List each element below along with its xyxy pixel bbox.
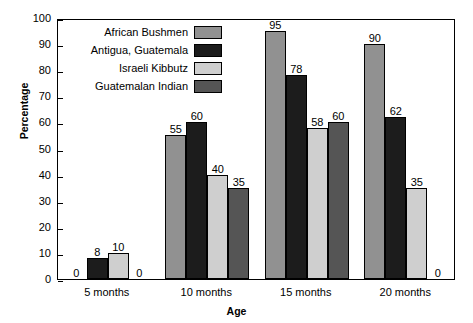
x-tick-label: 20 months [355,287,455,298]
x-tick-label: 10 months [156,287,256,298]
y-tick-label: 50 [23,144,51,155]
bar [228,188,249,279]
y-tick-label: 30 [23,196,51,207]
y-tick-label: 70 [23,91,51,102]
bar-value-label: 0 [420,268,455,279]
y-tick-label: 20 [23,222,51,233]
bar [385,117,406,279]
y-tick-mark [58,124,63,125]
y-tick-label: 10 [23,248,51,259]
bar [87,258,108,279]
legend-item-label: Antigua, Guatemala [91,45,194,56]
y-tick-mark [58,20,63,21]
y-tick-mark [58,203,63,204]
legend-item: African Bushmen [72,24,222,41]
y-tick-mark [58,151,63,152]
y-tick-label: 100 [23,13,51,24]
bar-value-label: 60 [321,111,356,122]
bar [307,128,328,279]
legend-item: Antigua, Guatemala [72,42,222,59]
y-tick-mark [58,229,63,230]
bar-value-label: 95 [258,20,293,31]
bar-chart: Percentage 0102030405060708090100 081005… [0,0,473,323]
y-tick-label: 0 [23,274,51,285]
bar-value-label: 90 [357,33,392,44]
legend-item-label: African Bushmen [104,27,194,38]
y-tick-mark [58,98,63,99]
legend: African BushmenAntigua, GuatemalaIsraeli… [72,24,222,96]
bar-value-label: 62 [378,106,413,117]
legend-item: Guatemalan Indian [72,78,222,95]
bar-value-label: 40 [200,164,235,175]
bar-value-label: 0 [122,268,157,279]
y-tick-label: 80 [23,65,51,76]
x-tick-label: 15 months [256,287,356,298]
bar [406,188,427,279]
x-tick-label: 5 months [57,287,157,298]
bar-value-label: 35 [221,177,256,188]
legend-item-label: Israeli Kibbutz [119,63,194,74]
bar-value-label: 78 [279,64,314,75]
y-tick-label: 90 [23,39,51,50]
y-tick-mark [58,46,63,47]
legend-color-swatch [194,26,222,39]
legend-item: Israeli Kibbutz [72,60,222,77]
bar [364,44,385,279]
legend-color-swatch [194,44,222,57]
y-tick-mark [58,177,63,178]
bar [207,175,228,279]
y-tick-mark [58,281,63,282]
bar [328,122,349,279]
y-tick-label: 60 [23,117,51,128]
legend-item-label: Guatemalan Indian [95,81,194,92]
bar-value-label: 35 [399,177,434,188]
bar-value-label: 60 [179,111,214,122]
bar [286,75,307,279]
x-axis-title: Age [0,305,473,317]
bar-value-label: 10 [101,242,136,253]
legend-color-swatch [194,62,222,75]
bar [186,122,207,279]
y-tick-mark [58,72,63,73]
bar [165,135,186,279]
legend-color-swatch [194,80,222,93]
y-tick-mark [58,255,63,256]
y-tick-label: 40 [23,170,51,181]
